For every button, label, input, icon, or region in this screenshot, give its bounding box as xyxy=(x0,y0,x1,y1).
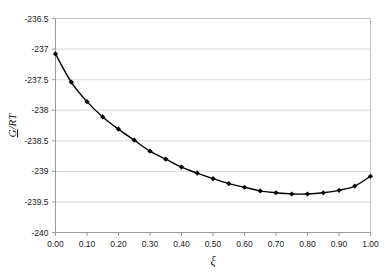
x-tick-label: 0.70 xyxy=(268,239,285,249)
gibbs-energy-line-chart: 0.000.100.200.300.400.500.600.700.800.90… xyxy=(0,0,392,279)
y-tick-label: -236.5 xyxy=(24,14,48,24)
x-tick-label: 0.90 xyxy=(331,239,348,249)
x-tick-label: 0.00 xyxy=(47,239,64,249)
x-tick-label: 0.80 xyxy=(299,239,316,249)
y-tick-label: -240 xyxy=(31,228,48,238)
y-tick-label: -237.5 xyxy=(24,75,48,85)
x-tick-label: 0.40 xyxy=(173,239,190,249)
x-tick-label: 0.10 xyxy=(79,239,96,249)
chart-background xyxy=(0,0,392,279)
y-tick-label: -239.5 xyxy=(24,197,48,207)
y-tick-label: -238 xyxy=(31,105,48,115)
x-tick-label: 0.50 xyxy=(205,239,222,249)
y-tick-label: -237 xyxy=(31,44,48,54)
chart-container: 0.000.100.200.300.400.500.600.700.800.90… xyxy=(0,0,392,279)
x-tick-label: 0.20 xyxy=(110,239,127,249)
x-tick-label: 0.60 xyxy=(236,239,253,249)
y-tick-label: -239 xyxy=(31,166,48,176)
y-tick-label: -238.5 xyxy=(24,136,48,146)
y-axis-title: G/RT xyxy=(6,113,18,138)
x-tick-label: 1.00 xyxy=(362,239,379,249)
x-tick-label: 0.30 xyxy=(142,239,159,249)
x-axis-title: ξ xyxy=(210,254,216,268)
